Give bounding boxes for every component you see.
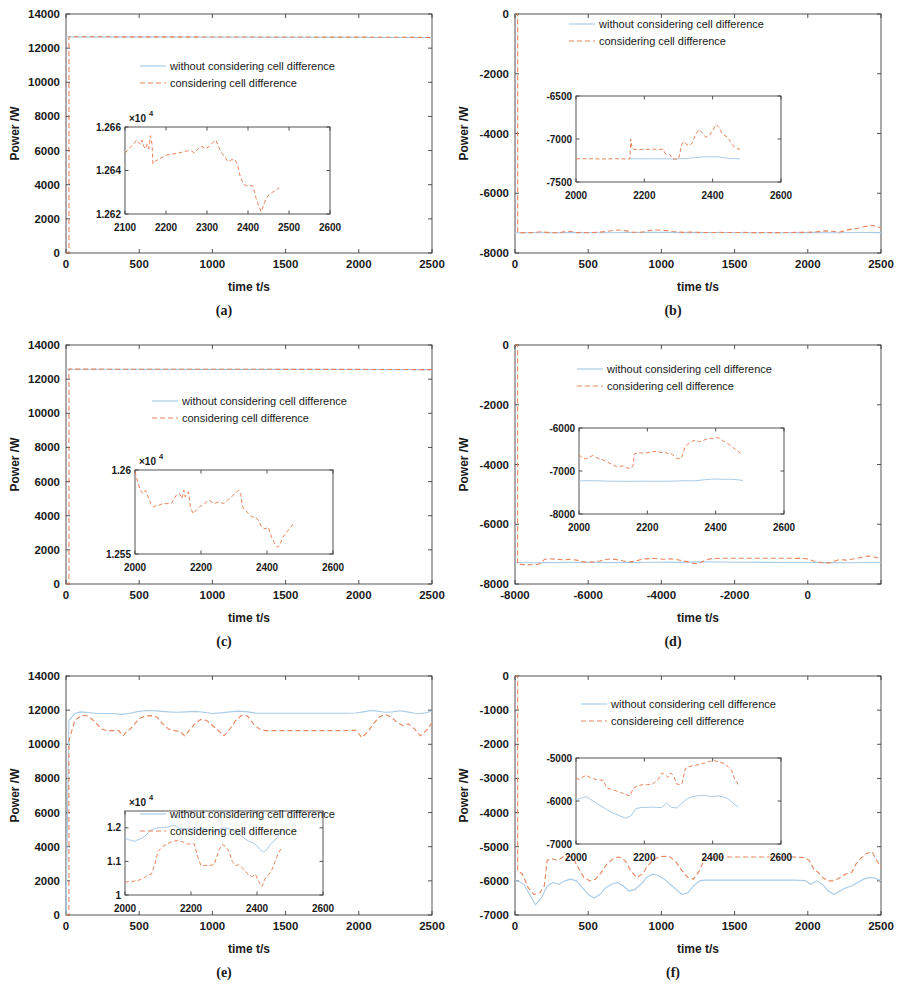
xtick-label: 1500 xyxy=(722,920,748,932)
legend-label-without-considering: without considering cell difference xyxy=(181,395,347,407)
inset-exponent-power: 4 xyxy=(149,109,154,118)
legend-b: without considering cell differenceconsi… xyxy=(569,18,764,47)
chart-panel-c: 0500100015002000250002000400060008000100… xyxy=(0,331,448,663)
x-axis-title: time t/s xyxy=(228,280,270,294)
inset-frame xyxy=(125,811,323,895)
inset-ytick-label: 1 xyxy=(115,890,121,901)
y-axis-title: Power /W xyxy=(457,768,471,823)
ytick-label: 12000 xyxy=(28,704,60,716)
inset-frame xyxy=(576,96,781,182)
inset-xtick-label: 2000 xyxy=(565,190,588,201)
legend-label-considering: considereing cell difference xyxy=(611,715,744,727)
legend-label-considering: considering cell difference xyxy=(170,77,297,89)
inset-ytick-label: -6500 xyxy=(546,91,572,102)
inset-xtick-label: 2000 xyxy=(114,903,137,914)
xtick-label: 0 xyxy=(63,920,69,932)
ytick-label: 8000 xyxy=(34,110,60,122)
inset-xtick-label: 2300 xyxy=(196,222,219,233)
inset-frame xyxy=(135,470,333,554)
series-line-without-considering xyxy=(515,874,881,905)
inset-xtick-label: 2400 xyxy=(702,852,725,863)
plot-svg-e: 0500100015002000250002000400060008000100… xyxy=(0,662,448,962)
ytick-label: -4000 xyxy=(480,459,509,471)
series-line-without-considering xyxy=(66,37,432,38)
xtick-label: -2000 xyxy=(720,589,749,601)
inset-xtick-label: 2600 xyxy=(322,562,345,573)
inset-xtick-label: 2000 xyxy=(565,852,588,863)
plot-svg-b: 05001000150020002500-8000-6000-4000-2000… xyxy=(449,0,897,300)
y-axis-title: Power /W xyxy=(8,106,22,161)
panel-caption-b: (b) xyxy=(449,303,897,319)
inset-xtick-label: 2200 xyxy=(190,562,213,573)
inset-xtick-label: 2400 xyxy=(246,903,269,914)
inset-ytick-label: 1.26 xyxy=(112,465,132,476)
inset-xtick-label: 2600 xyxy=(770,190,793,201)
xtick-label: 1000 xyxy=(200,258,226,270)
xtick-label: 2000 xyxy=(346,589,372,601)
figure-container: 0500100015002000250002000400060008000100… xyxy=(0,0,897,996)
legend-label-considering: considering cell difference xyxy=(182,412,309,424)
ytick-label: 10000 xyxy=(28,76,60,88)
chart-panel-e: 0500100015002000250002000400060008000100… xyxy=(0,662,448,994)
xtick-label: -6000 xyxy=(573,589,602,601)
panel-caption-a: (a) xyxy=(0,303,448,319)
inset-ytick-label: -6000 xyxy=(549,423,575,434)
ytick-label: 2000 xyxy=(34,213,60,225)
ytick-label: 6000 xyxy=(34,807,60,819)
legend-label-considering: considering cell difference xyxy=(607,380,734,392)
ytick-label: -2000 xyxy=(480,68,509,80)
xtick-label: 500 xyxy=(130,258,149,270)
ytick-label: 10000 xyxy=(28,407,60,419)
ytick-label: -4000 xyxy=(480,128,509,140)
ytick-label: 14000 xyxy=(28,8,60,20)
xtick-label: 500 xyxy=(130,920,149,932)
xtick-label: 1500 xyxy=(273,589,299,601)
xtick-label: 2500 xyxy=(419,920,445,932)
x-axis-title: time t/s xyxy=(228,611,270,625)
xtick-label: 500 xyxy=(579,258,598,270)
inset-ytick-label: -7500 xyxy=(546,177,572,188)
inset-exponent-label: ×10 xyxy=(139,456,156,467)
xtick-label: 0 xyxy=(512,258,518,270)
chart-panel-a: 0500100015002000250002000400060008000100… xyxy=(0,0,448,332)
xtick-label: -8000 xyxy=(500,589,529,601)
ytick-label: -3000 xyxy=(480,772,509,784)
inset-ytick-label: -7000 xyxy=(546,134,572,145)
ytick-label: -4000 xyxy=(480,807,509,819)
inset-xtick-label: 2000 xyxy=(568,522,591,533)
inset-xtick-label: 2200 xyxy=(155,222,178,233)
ytick-label: 14000 xyxy=(28,339,60,351)
ytick-label: 0 xyxy=(54,909,60,921)
inset-xtick-label: 2600 xyxy=(312,903,335,914)
chart-panel-d: -8000-6000-4000-20000-8000-6000-4000-200… xyxy=(449,331,897,663)
legend-label-without-considering: without considering cell difference xyxy=(610,698,776,710)
xtick-label: 1500 xyxy=(722,258,748,270)
inset-xtick-label: 2200 xyxy=(633,190,656,201)
x-axis-title: time t/s xyxy=(677,280,719,294)
chart-panel-b: 05001000150020002500-8000-6000-4000-2000… xyxy=(449,0,897,332)
y-axis-title: Power /W xyxy=(8,768,22,823)
y-axis-title: Power /W xyxy=(457,437,471,492)
inset-ytick-label: 1.264 xyxy=(96,165,121,176)
ytick-label: 6000 xyxy=(34,476,60,488)
ytick-label: 4000 xyxy=(34,179,60,191)
inset-xtick-label: 2000 xyxy=(124,562,147,573)
xtick-label: 2000 xyxy=(346,920,372,932)
ytick-label: -2000 xyxy=(480,738,509,750)
inset-axes-f: 2000220024002600-7000-6000-5000 xyxy=(546,753,792,864)
inset-axes-a: 2100220023002400250026001.2621.2641.266×… xyxy=(96,109,342,233)
panel-caption-f: (f) xyxy=(449,965,897,981)
ytick-label: 8000 xyxy=(34,441,60,453)
xtick-label: 2500 xyxy=(868,258,894,270)
legend-label-without-considering: without considering cell difference xyxy=(169,60,335,72)
inset-frame xyxy=(125,127,330,214)
legend-f: without considering cell differenceconsi… xyxy=(581,698,776,727)
xtick-label: -4000 xyxy=(647,589,676,601)
xtick-label: 2500 xyxy=(868,920,894,932)
legend-d: without considering cell differenceconsi… xyxy=(577,363,772,392)
legend-label-considering: considering cell difference xyxy=(170,825,297,837)
ytick-label: 4000 xyxy=(34,510,60,522)
inset-ytick-label: -8000 xyxy=(549,509,575,520)
xtick-label: 0 xyxy=(63,589,69,601)
ytick-label: -6000 xyxy=(480,518,509,530)
